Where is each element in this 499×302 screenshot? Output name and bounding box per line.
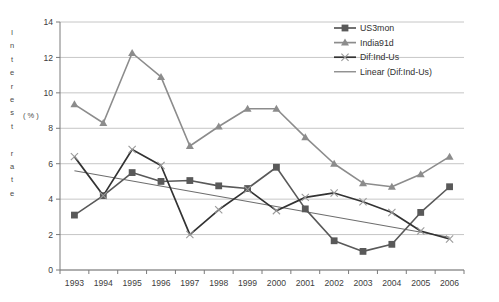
y-axis-ticks: 02468101214 xyxy=(43,17,60,275)
chart-legend: US3monIndia91dDif:Ind-UsLinear (Dif:Ind-… xyxy=(334,23,432,77)
grid-lines xyxy=(60,22,464,270)
data-point-marker xyxy=(417,209,424,216)
data-point-marker xyxy=(215,123,223,130)
data-point-marker xyxy=(158,178,165,185)
y-tick-label: 2 xyxy=(48,230,53,240)
trendline-linear-dif-ind-us xyxy=(74,171,449,237)
x-tick-label: 1998 xyxy=(209,278,228,288)
data-point-marker xyxy=(273,164,280,171)
data-point-marker xyxy=(70,100,78,107)
x-tick-label: 1995 xyxy=(123,278,142,288)
x-tick-label: 2000 xyxy=(267,278,286,288)
chart-container: Interest rate ( % ) 02468101214 19931994… xyxy=(0,0,499,302)
legend-label: India91d xyxy=(360,38,394,48)
data-point-marker xyxy=(186,177,193,184)
x-tick-label: 1996 xyxy=(151,278,170,288)
data-point-marker xyxy=(360,248,367,255)
x-tick-label: 1993 xyxy=(65,278,84,288)
x-tick-label: 2003 xyxy=(353,278,372,288)
data-point-marker xyxy=(388,241,395,248)
legend-label: Linear (Dif:Ind-Us) xyxy=(360,67,432,77)
data-point-marker xyxy=(331,237,338,244)
plot-area: 02468101214 1993199419951996199719981999… xyxy=(0,0,499,302)
x-tick-label: 2004 xyxy=(382,278,401,288)
series-line xyxy=(74,150,449,239)
legend-item-linear-dif-ind-us-[interactable]: Linear (Dif:Ind-Us) xyxy=(334,67,432,77)
data-point-marker xyxy=(302,205,309,212)
y-tick-label: 4 xyxy=(48,194,53,204)
data-point-marker xyxy=(359,179,367,186)
x-axis-ticks: 1993199419951996199719981999200020012002… xyxy=(60,270,464,288)
data-point-marker xyxy=(417,170,425,177)
data-point-marker xyxy=(99,119,107,126)
data-series-group xyxy=(70,49,453,255)
data-point-marker xyxy=(446,183,453,190)
y-tick-label: 6 xyxy=(48,159,53,169)
x-tick-label: 2005 xyxy=(411,278,430,288)
y-tick-label: 14 xyxy=(43,17,53,27)
data-point-marker xyxy=(129,169,136,176)
data-point-marker xyxy=(215,182,222,189)
series-trendline-linear-dif xyxy=(74,171,449,237)
legend-item-dif-ind-us[interactable]: Dif:Ind-Us xyxy=(334,52,400,62)
y-tick-label: 8 xyxy=(48,123,53,133)
legend-label: US3mon xyxy=(360,23,394,33)
legend-item-us3mon[interactable]: US3mon xyxy=(334,23,394,33)
series-line xyxy=(74,167,449,251)
y-tick-label: 0 xyxy=(48,265,53,275)
data-point-marker xyxy=(446,153,454,160)
data-point-marker xyxy=(186,142,194,149)
legend-label: Dif:Ind-Us xyxy=(360,52,400,62)
x-tick-label: 1994 xyxy=(94,278,113,288)
x-tick-label: 2002 xyxy=(325,278,344,288)
y-tick-label: 10 xyxy=(43,88,53,98)
legend-item-india91d[interactable]: India91d xyxy=(334,38,394,48)
x-tick-label: 1999 xyxy=(238,278,257,288)
axis-lines xyxy=(60,22,464,270)
x-tick-label: 1997 xyxy=(180,278,199,288)
data-point-marker xyxy=(128,49,136,56)
y-tick-label: 12 xyxy=(43,53,53,63)
data-point-marker xyxy=(71,212,78,219)
x-tick-label: 2001 xyxy=(296,278,315,288)
legend-swatch-marker xyxy=(342,25,349,32)
x-tick-label: 2006 xyxy=(440,278,459,288)
